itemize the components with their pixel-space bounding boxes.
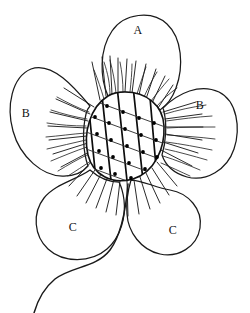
label-petal-lower-left-c: C	[69, 220, 78, 234]
label-petal-right-b: B	[196, 98, 205, 112]
flower-illustration: A B B C C	[0, 0, 250, 313]
label-petal-lower-right-c: C	[169, 223, 178, 237]
petal-lower-left-c	[36, 170, 124, 260]
label-petal-left-b: B	[22, 106, 31, 120]
label-petal-a: A	[133, 23, 142, 37]
flower-diagram: A B B C C	[0, 0, 250, 313]
petal-lower-right-c	[127, 180, 201, 255]
